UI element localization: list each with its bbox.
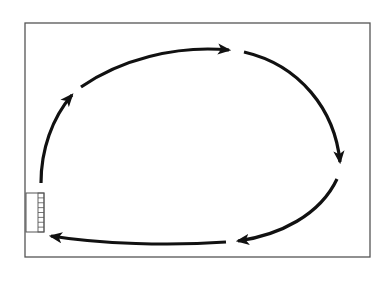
flow-arrow-up-left	[41, 95, 72, 183]
flow-arrow-bottom	[51, 236, 226, 244]
station-box	[26, 193, 44, 232]
flow-arrows	[41, 49, 340, 244]
room-frame	[25, 23, 370, 257]
flow-arrow-top-left	[81, 49, 229, 87]
flow-arrow-top-right	[244, 52, 340, 162]
flow-arrow-right-bottom	[238, 179, 337, 241]
diagram-canvas	[0, 0, 389, 283]
